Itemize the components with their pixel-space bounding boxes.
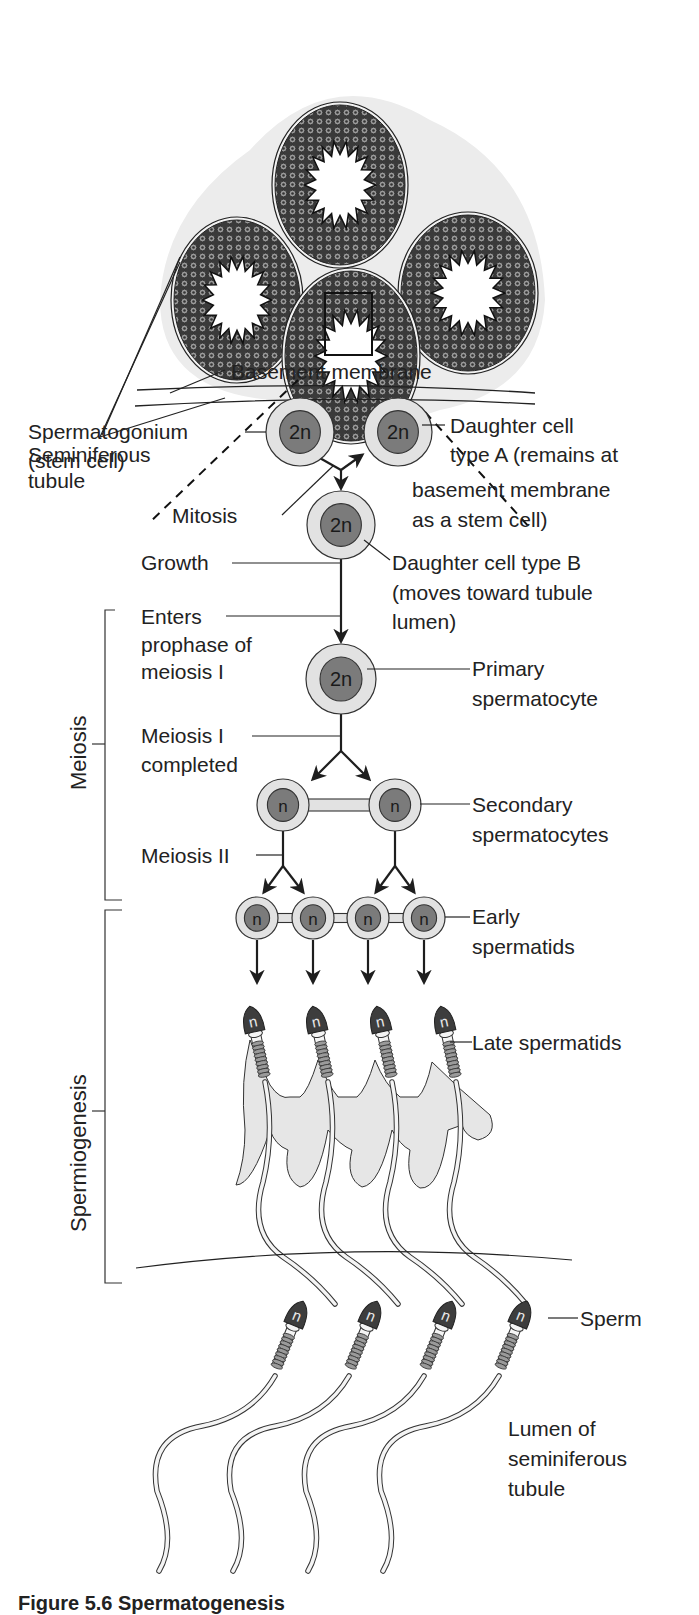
daughter-a-cell: 2n [364,398,432,466]
spermiogenesis-bracket [92,910,122,1283]
primary-line1: Primary [472,657,545,680]
primary-spermatocyte-label: Primary spermatocyte [472,657,598,710]
enters-prophase-line3: meiosis I [141,660,224,683]
daughter-a-line2: type A (remains at [450,443,618,466]
figure-caption-cropped: Figure 5.6 Spermatogenesis [18,1592,285,1615]
enters-prophase-label: Enters prophase of meiosis I [141,605,252,683]
ploidy-label: n [278,797,287,816]
daughter-b-label: Daughter cell type B (moves toward tubul… [392,551,593,633]
ploidy-label: n [308,910,317,929]
early-spermatid-cell: n [292,897,334,939]
early-spermatid-cell: n [236,897,278,939]
early-spermatid-cell: n [403,897,445,939]
ploidy-label: n [252,910,261,929]
tubule-label-line2: tubule [28,469,85,492]
early-spermatids-label: Early spermatids [472,905,575,958]
spermiogenesis-arrows [257,940,424,982]
secondary-line1: Secondary [472,793,573,816]
daughter-a-line3: basement membrane [412,478,610,501]
primary-line2: spermatocyte [472,687,598,710]
growth-label: Growth [141,551,209,574]
secondary-spermatocyte-cell: n [369,779,421,831]
meiosis-ii-label: Meiosis II [141,844,230,867]
daughter-b-line2: (moves toward tubule [392,581,593,604]
tubule-leader-left [100,262,180,437]
meiosis-i-arrow-left [313,751,341,779]
ploidy-label: n [390,797,399,816]
ploidy-label: n [363,910,372,929]
enters-prophase-line2: prophase of [141,633,252,656]
spermatogonium-cell: 2n [266,398,334,466]
ploidy-label: 2n [330,668,352,690]
sperm-label: Sperm [580,1307,642,1330]
ploidy-label: 2n [330,514,352,536]
daughter-a-label: Daughter cell type A (remains at basemen… [412,414,618,531]
early-line1: Early [472,905,520,928]
lumen-line3: tubule [508,1477,565,1500]
sperm-cell: n [155,1297,312,1571]
ploidy-label: 2n [387,421,409,443]
ploidy-label: n [419,910,428,929]
lumen-line1: Lumen of [508,1417,596,1440]
spermatogonium-line1: Spermatogonium [28,420,188,443]
meiosis-i-arrow-right [341,751,369,779]
spermiogenesis-phase-label: Spermiogenesis [66,1074,91,1232]
mitosis-label: Mitosis [172,504,237,527]
daughter-b-line3: lumen) [392,610,456,633]
mitosis-arrows [318,455,362,488]
sperm-cell: n [229,1297,386,1571]
meiosis-bracket [92,610,122,900]
tubule-top [272,102,408,268]
early-spermatid-cell: n [347,897,389,939]
ploidy-label: 2n [289,421,311,443]
enters-prophase-line1: Enters [141,605,202,628]
meiosis-ii-arrows [264,831,414,892]
daughter-a-line4: as a stem cell) [412,508,547,531]
meiosis-i-completed-label: Meiosis I completed [141,724,238,776]
basement-membrane-label: Basement membrane [231,360,432,383]
tubule-cross-section [160,96,545,444]
lumen-line2: seminiferous [508,1447,627,1470]
secondary-spermatocyte-cell: n [257,779,309,831]
late-spermatids-label: Late spermatids [472,1031,621,1054]
meiosis-i-line1: Meiosis I [141,724,224,747]
daughter-a-line1: Daughter cell [450,414,574,437]
lumen-label: Lumen of seminiferous tubule [508,1417,627,1500]
primary-spermatocyte-cell: 2n [306,644,376,714]
mature-sperm: nnnn [155,1297,536,1571]
meiosis-i-line2: completed [141,753,238,776]
early-line2: spermatids [472,935,575,958]
daughter-b-line1: Daughter cell type B [392,551,581,574]
secondary-line2: spermatocytes [472,823,609,846]
secondary-spermatocytes-label: Secondary spermatocytes [472,793,609,846]
daughter-b-leader [364,540,390,560]
daughter-b-cell: 2n [307,491,375,559]
spermatogonium-line2: (stem cell) [28,449,125,472]
meiosis-phase-label: Meiosis [66,715,91,790]
sperm-cell: n [304,1297,461,1571]
